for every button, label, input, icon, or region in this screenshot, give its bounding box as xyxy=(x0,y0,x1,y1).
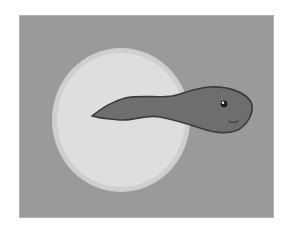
illustration-canvas xyxy=(0,0,290,226)
tadpole-eye xyxy=(221,101,228,108)
eye-highlight xyxy=(222,102,224,104)
tadpole-scene xyxy=(0,0,290,226)
